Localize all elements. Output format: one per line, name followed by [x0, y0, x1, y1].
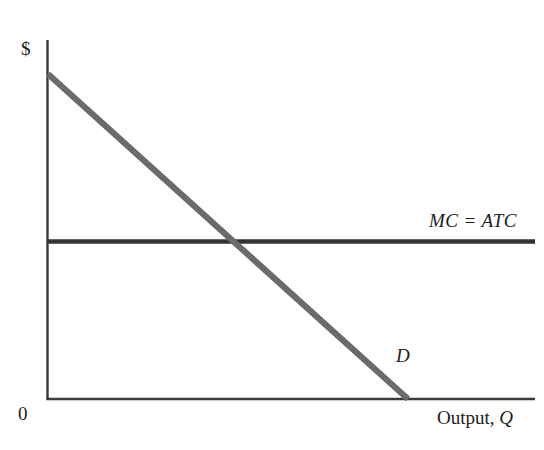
x-axis-label-variable: Q: [499, 407, 513, 428]
demand-curve-label: D: [396, 346, 410, 365]
origin-label: 0: [18, 404, 28, 423]
x-axis-label: Output, Q: [437, 408, 513, 427]
mc-atc-curve-label: MC = ATC: [429, 211, 517, 230]
economics-chart-figure: $ 0 Output, Q MC = ATC D: [0, 0, 544, 450]
y-axis-label: $: [21, 39, 31, 58]
x-axis-label-text: Output,: [437, 407, 499, 428]
